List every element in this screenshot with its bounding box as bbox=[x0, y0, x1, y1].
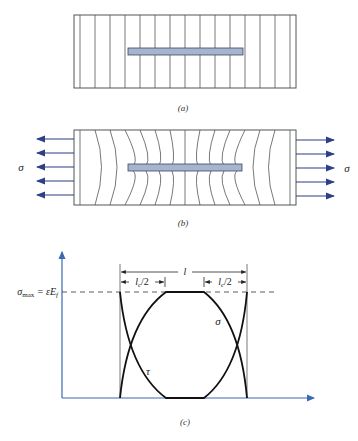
shear-curve-label: τ bbox=[146, 365, 151, 377]
tensile-stress-curve bbox=[120, 292, 247, 398]
fiber bbox=[128, 48, 243, 55]
fiber bbox=[128, 164, 242, 171]
tensile-curve-label: σ bbox=[215, 315, 221, 327]
caption-a: (a) bbox=[178, 103, 189, 113]
tensile-arrows-left bbox=[37, 139, 74, 195]
lc-half-left: lc/2 bbox=[135, 276, 149, 289]
caption-c: (c) bbox=[180, 417, 190, 427]
tensile-arrows-right bbox=[296, 140, 334, 196]
composite-fiber-figure: (a) bbox=[0, 0, 358, 441]
panel-b: σ σ (b) bbox=[18, 130, 350, 228]
sigma-max-label: σmax = εEf bbox=[17, 286, 59, 299]
length-label: l bbox=[184, 266, 187, 277]
shear-stress-curve bbox=[120, 292, 247, 398]
stress-label-right: σ bbox=[344, 162, 350, 174]
lc-half-right: lc/2 bbox=[218, 276, 232, 289]
stress-label-left: σ bbox=[18, 161, 24, 173]
caption-b: (b) bbox=[178, 218, 189, 228]
panel-c: l lc/2 lc/2 σmax = εEf σ τ (c) bbox=[17, 252, 314, 427]
panel-a: (a) bbox=[74, 15, 296, 113]
